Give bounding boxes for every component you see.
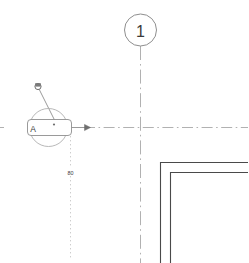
wall-outer-line [161,163,249,263]
drawing-svg: 1 A [0,0,248,263]
dimension-value: 80 [68,170,74,176]
grid-bubble-label: 1 [136,23,145,40]
wall-corner [161,163,249,263]
revision-marker[interactable] [35,83,41,89]
callout-label: A [30,124,36,134]
grid-bubble[interactable]: 1 [125,14,157,46]
dimension-line-group: 80 [66,136,76,259]
revision-marker-fill [35,83,41,86]
callout-center-dot [53,123,55,125]
detail-callout[interactable]: A [28,83,91,146]
cad-drawing-canvas[interactable]: 1 A [0,0,248,263]
wall-inner-line [171,173,249,263]
arrowhead-right-icon [85,124,91,130]
view-direction-arrow [85,124,91,130]
